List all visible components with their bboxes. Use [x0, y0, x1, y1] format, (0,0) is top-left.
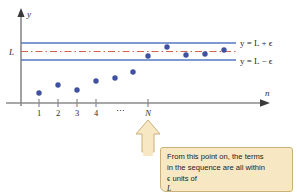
data-point: [221, 47, 226, 52]
x-tick-labels: 1 2 3 4 ⋯ N: [37, 106, 152, 118]
x-axis-arrowhead: [260, 99, 270, 107]
tick-label-2: 2: [56, 108, 60, 118]
y-axis-arrowhead: [17, 8, 24, 17]
data-point: [202, 51, 207, 56]
callout-line-3-post: .: [167, 195, 287, 196]
tick-label-3: 3: [75, 108, 79, 118]
data-point: [130, 69, 135, 74]
data-point: [93, 78, 98, 83]
tick-label-N: N: [144, 108, 152, 118]
callout-line-3-italic: L: [167, 184, 171, 193]
callout-arrow: [136, 120, 160, 152]
upper-band-label: y = L + ϵ: [240, 38, 273, 48]
tick-label-1: 1: [37, 108, 41, 118]
lower-band-label: y = L − ϵ: [240, 56, 273, 66]
data-point: [164, 44, 169, 49]
tick-label-4: 4: [94, 108, 99, 118]
callout-box: From this point on, the terms in the seq…: [160, 147, 293, 192]
data-point: [145, 53, 150, 58]
x-axis-group: n: [6, 88, 270, 107]
callout-line-3-pre: ϵ units of: [167, 174, 287, 185]
tick-label-ellipsis: ⋯: [116, 106, 126, 116]
callout-line-3: ϵ units of L.: [167, 174, 287, 196]
data-point: [74, 87, 79, 92]
data-point: [36, 90, 41, 95]
y-axis-group: y: [17, 8, 31, 106]
y-axis-label: y: [26, 9, 31, 19]
data-point: [112, 75, 117, 80]
callout-arrow-joint-cover: [143, 148, 153, 156]
figure-canvas: y n L y = L + ϵ y = L − ϵ 1 2: [0, 0, 297, 196]
data-point: [55, 82, 60, 87]
callout-line-2: in the sequence are all within: [167, 163, 287, 174]
x-axis-label: n: [265, 88, 270, 98]
limit-label-L: L: [8, 47, 14, 57]
callout-line-1: From this point on, the terms: [167, 152, 287, 163]
data-point: [183, 52, 188, 57]
